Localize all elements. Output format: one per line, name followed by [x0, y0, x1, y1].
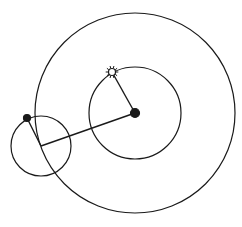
sun-ray: [113, 66, 114, 68]
sun-ray: [110, 76, 111, 78]
epicycle-diagram: [0, 0, 242, 227]
center-to-epicycle-center-line: [41, 113, 135, 146]
sun-ray: [115, 68, 117, 69]
center-to-sun-line: [112, 72, 135, 113]
epicycle-radius-line: [27, 118, 41, 146]
sun-ray: [107, 68, 109, 69]
planet-dot: [24, 115, 31, 122]
earth-center-dot: [131, 109, 140, 118]
sun-ray: [113, 76, 114, 78]
sun-ray: [115, 74, 117, 75]
sun-icon: [109, 69, 116, 76]
sun-ray: [110, 66, 111, 68]
